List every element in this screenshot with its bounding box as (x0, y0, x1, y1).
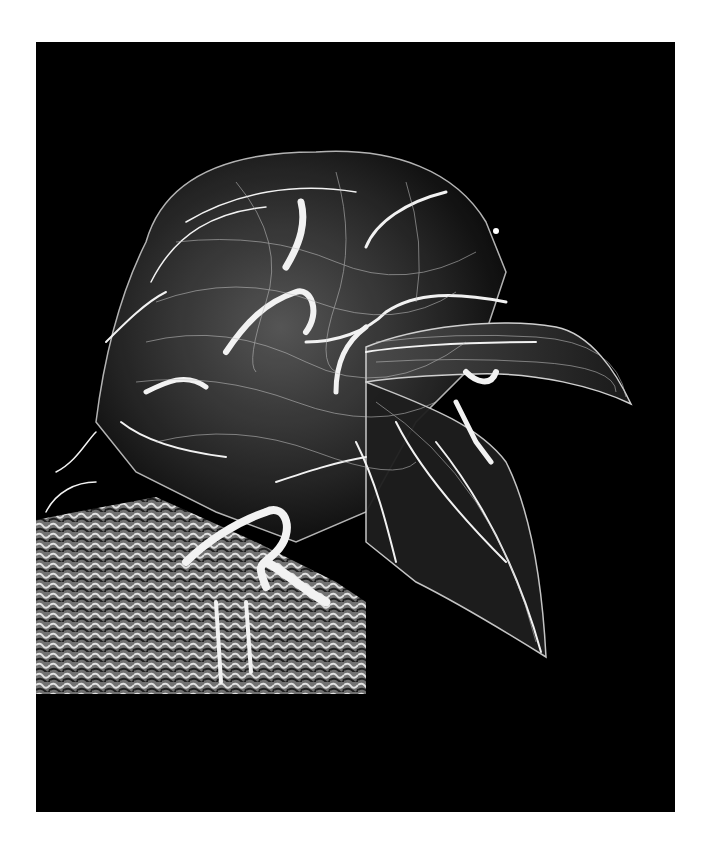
ct-render-panel (36, 42, 675, 812)
bright-spot (493, 228, 499, 234)
lower-jaw (366, 382, 546, 657)
bird-head-vascular-render (36, 42, 675, 812)
